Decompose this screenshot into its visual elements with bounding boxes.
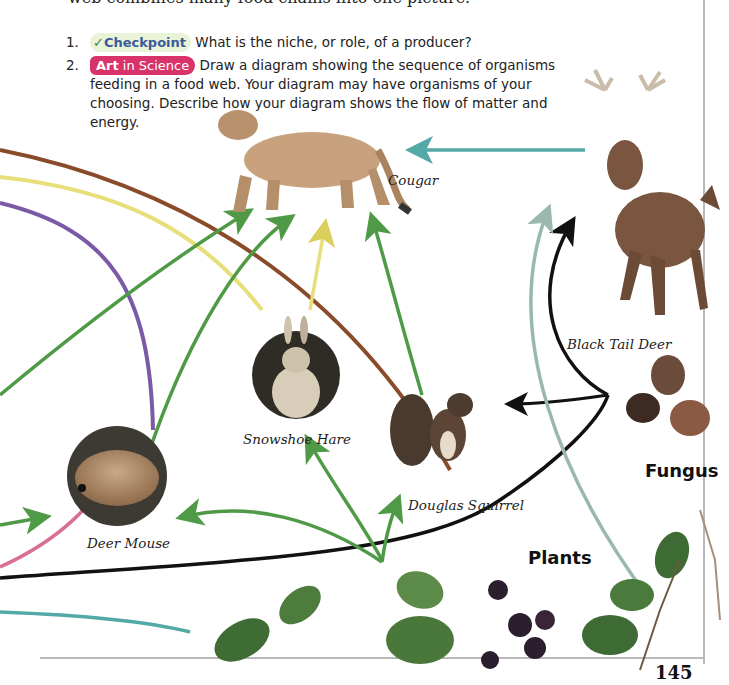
cougar-label: Cougar (388, 172, 438, 188)
arrow-plants-to-squirrel (382, 500, 398, 562)
snowshoe-hare-image (252, 316, 340, 419)
plants-image (207, 510, 720, 671)
long-arrow-purple (0, 203, 153, 430)
plants-label: Plants (528, 547, 592, 568)
snowshoe-hare-label: Snowshoe Hare (243, 431, 351, 447)
douglas-squirrel-image (390, 393, 473, 466)
fungus-image (626, 355, 710, 436)
arrow-hare-to-cougar (310, 225, 325, 310)
arrow-fungus-to-squirrel (510, 395, 608, 404)
arrow-teal-bottom (0, 612, 190, 632)
arrow-mouse-to-cougar (148, 218, 290, 455)
fungus-label: Fungus (645, 460, 718, 481)
cougar-image (218, 110, 410, 212)
deer-mouse-label: Deer Mouse (87, 535, 170, 551)
arrow-fungus-to-deer (550, 222, 608, 395)
page-number: 145 (655, 662, 693, 683)
deer-mouse-image (67, 426, 167, 526)
arrow-plants-to-mouse (182, 511, 382, 562)
black-tail-deer-label: Black Tail Deer (567, 336, 672, 352)
deer-image (585, 70, 720, 315)
long-arrow-green-left (0, 212, 248, 395)
arrow-left-to-mouse (0, 517, 45, 525)
douglas-squirrel-label: Douglas Squirrel (408, 497, 524, 513)
